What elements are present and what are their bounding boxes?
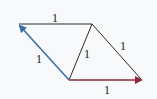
label-right: 1 bbox=[120, 40, 126, 52]
label-diagonal: 1 bbox=[84, 48, 90, 60]
edge-right bbox=[92, 24, 141, 79]
blue-vector-arrow bbox=[20, 26, 69, 80]
label-top: 1 bbox=[52, 12, 58, 24]
label-left: 1 bbox=[36, 53, 42, 65]
parallelogram-diagram: 1 1 1 1 1 bbox=[0, 0, 157, 99]
label-bottom: 1 bbox=[104, 84, 110, 96]
diagram-canvas bbox=[0, 0, 157, 99]
